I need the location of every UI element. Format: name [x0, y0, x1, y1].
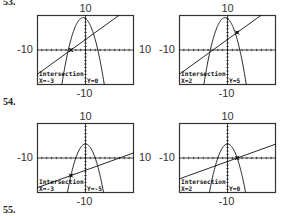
- x-min-label: -10: [159, 151, 175, 163]
- y-max-label: 10: [222, 2, 234, 14]
- graph-screen-2: IntersectionX=2Y=5: [179, 15, 276, 85]
- y-max-label: 10: [80, 110, 92, 122]
- graph-screen-4: IntersectionX=2Y=0: [179, 123, 276, 193]
- y-max-label: 10: [222, 110, 234, 122]
- intersection-x-value: X=-3: [39, 185, 54, 192]
- x-min-label: -10: [17, 151, 33, 163]
- problem-number-55: 55.: [3, 204, 16, 215]
- intersection-y-value: Y=0: [229, 185, 240, 192]
- y-min-label: -10: [219, 87, 235, 99]
- y-max-label: 10: [80, 2, 92, 14]
- intersection-y-value: Y=-5: [87, 185, 102, 192]
- intersection-x-value: X=-3: [39, 77, 54, 84]
- y-min-label: -10: [77, 195, 93, 207]
- y-min-label: -10: [219, 195, 235, 207]
- graph-screen-3: IntersectionX=-3Y=-5: [37, 123, 134, 193]
- intersection-y-value: Y=0: [87, 77, 98, 84]
- problem-number-54: 54.: [3, 96, 16, 107]
- x-min-label: -10: [17, 43, 33, 55]
- graph-screen-1: IntersectionX=-3Y=0: [37, 15, 134, 85]
- intersection-x-value: X=2: [181, 77, 192, 84]
- intersection-y-value: Y=5: [229, 77, 240, 84]
- intersection-x-value: X=2: [181, 185, 192, 192]
- problem-number-53: 53.: [3, 0, 16, 7]
- x-max-label: 10: [139, 43, 151, 55]
- x-min-label: -10: [159, 43, 175, 55]
- y-min-label: -10: [77, 87, 93, 99]
- intersection-cursor: [235, 156, 239, 160]
- x-max-label: 10: [139, 151, 151, 163]
